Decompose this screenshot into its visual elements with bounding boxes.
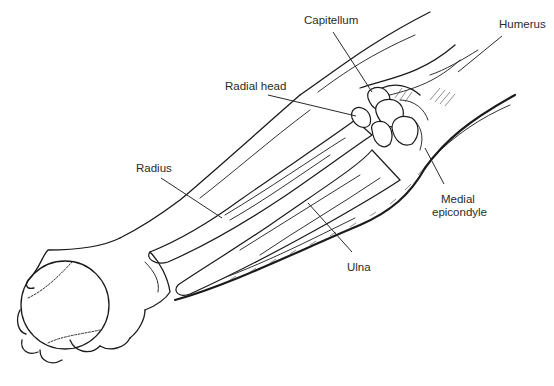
label-humerus: Humerus: [499, 18, 546, 30]
baseball: [21, 261, 109, 349]
hand-outline: [18, 238, 170, 363]
label-medial-epicondyle-line2: epicondyle: [432, 206, 487, 218]
label-radius: Radius: [136, 162, 172, 174]
forearm-anatomy-diagram: Capitellum Humerus Radial head Medial ep…: [0, 0, 554, 386]
leader-radius: [161, 178, 222, 218]
label-radial-head: Radial head: [225, 80, 286, 92]
leader-radial-head: [268, 95, 356, 116]
leader-humerus: [458, 36, 502, 72]
label-capitellum: Capitellum: [304, 14, 358, 26]
label-ulna: Ulna: [347, 261, 371, 273]
leader-medial-epicondyle: [425, 148, 444, 184]
leader-capitellum: [333, 32, 372, 92]
label-medial-epicondyle-line1: Medial: [441, 193, 475, 205]
